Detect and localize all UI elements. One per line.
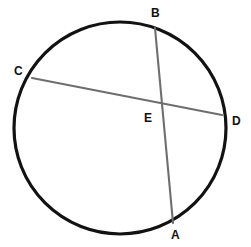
geometry-figure: B C D E A <box>0 0 251 247</box>
point-label-b: B <box>151 7 160 19</box>
point-label-e: E <box>144 112 152 124</box>
chord-ba <box>155 28 173 223</box>
geometry-canvas <box>0 0 251 247</box>
circle-outline <box>14 22 226 234</box>
point-label-a: A <box>171 229 180 241</box>
point-label-d: D <box>232 115 241 127</box>
chord-cd <box>32 78 222 115</box>
point-label-c: C <box>14 65 23 77</box>
